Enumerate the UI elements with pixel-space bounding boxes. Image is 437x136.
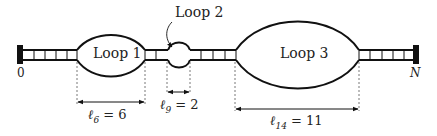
length-subscript: 6 bbox=[93, 115, 99, 125]
loop-1-label: Loop 1 bbox=[93, 45, 141, 61]
left-end-label: 0 bbox=[17, 66, 25, 80]
left-end-block bbox=[17, 45, 23, 64]
right-end-label: N bbox=[410, 66, 421, 80]
length-value: = 6 bbox=[103, 107, 126, 122]
length-subscript: 9 bbox=[165, 105, 171, 115]
ladder-segment-2 bbox=[145, 50, 168, 60]
length-value: = 11 bbox=[291, 113, 323, 128]
loop-3-label: Loop 3 bbox=[280, 45, 328, 61]
length-label-l6: ℓ6 = 6 bbox=[88, 107, 127, 125]
length-value: = 2 bbox=[175, 97, 198, 112]
loop-2-label: Loop 2 bbox=[175, 4, 223, 20]
length-label-l9: ℓ9 = 2 bbox=[160, 97, 199, 115]
loop-2-callout-arrow bbox=[167, 22, 172, 47]
ladder-segment-1 bbox=[23, 50, 77, 60]
length-subscript: 14 bbox=[275, 121, 286, 131]
length-label-l14: ℓ14 = 11 bbox=[270, 113, 323, 131]
ladder-segment-3 bbox=[190, 50, 236, 60]
ladder-segment-4 bbox=[359, 50, 414, 60]
diagram-canvas bbox=[0, 0, 437, 136]
right-end-block bbox=[413, 45, 419, 64]
